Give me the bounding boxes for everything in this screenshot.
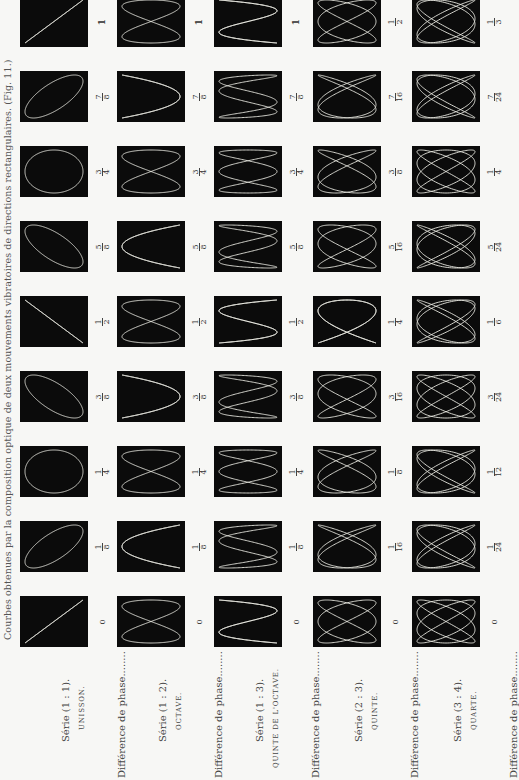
lissajous-figure xyxy=(20,596,88,647)
interval-name: QUARTE. xyxy=(470,691,478,730)
lissajous-curve-icon xyxy=(117,296,185,347)
interval-name: UNISSON. xyxy=(78,686,86,730)
lissajous-figure xyxy=(20,446,88,497)
phase-fraction: 58 xyxy=(289,243,304,250)
lissajous-figure xyxy=(412,146,480,197)
phase-value: 0 xyxy=(195,619,204,624)
lissajous-figure xyxy=(412,521,480,572)
lissajous-figure xyxy=(117,596,185,647)
lissajous-curve-icon xyxy=(412,296,480,347)
lissajous-figure xyxy=(214,446,282,497)
lissajous-curve-icon xyxy=(412,71,480,122)
phase-difference-label: 14 xyxy=(387,310,403,334)
lissajous-figure xyxy=(117,0,185,47)
phase-fraction: 78 xyxy=(95,93,110,100)
phase-difference-label: 78 xyxy=(288,85,304,109)
phase-difference-label: 18 xyxy=(288,535,304,559)
phase-fraction: 18 xyxy=(192,543,207,550)
phase-fraction: 34 xyxy=(289,168,304,175)
phase-fraction: 13 xyxy=(487,18,502,25)
phase-difference-label: 14 xyxy=(191,460,207,484)
phase-difference-label: 116 xyxy=(387,535,403,559)
lissajous-figure xyxy=(214,371,282,422)
phase-difference-label: 124 xyxy=(486,535,502,559)
phase-difference-label: 112 xyxy=(486,460,502,484)
lissajous-curve-icon xyxy=(412,0,480,47)
phase-fraction: 14 xyxy=(388,318,403,325)
phase-fraction: 112 xyxy=(487,467,502,477)
phase-fraction: 12 xyxy=(289,318,304,325)
lissajous-figure xyxy=(20,521,88,572)
phase-difference-heading: Différence de phase........ xyxy=(310,651,321,778)
phase-difference-label: 0 xyxy=(191,610,207,634)
lissajous-curve-icon xyxy=(117,221,185,272)
phase-difference-label: 58 xyxy=(191,235,207,259)
lissajous-curve-icon xyxy=(313,71,381,122)
phase-fraction: 18 xyxy=(95,543,110,550)
lissajous-figure xyxy=(20,221,88,272)
phase-fraction: 316 xyxy=(388,392,403,402)
lissajous-figure xyxy=(214,596,282,647)
phase-fraction: 14 xyxy=(487,168,502,175)
lissajous-figure xyxy=(20,71,88,122)
lissajous-figure xyxy=(313,446,381,497)
lissajous-curve-icon xyxy=(20,221,88,272)
lissajous-figure xyxy=(117,146,185,197)
lissajous-figure xyxy=(313,371,381,422)
phase-fraction: 716 xyxy=(388,92,403,102)
phase-difference-label: 1 xyxy=(94,10,110,34)
lissajous-figure xyxy=(313,71,381,122)
lissajous-figure xyxy=(214,521,282,572)
lissajous-curve-icon xyxy=(214,596,282,647)
phase-difference-label: 34 xyxy=(191,160,207,184)
phase-difference-label: 38 xyxy=(288,385,304,409)
lissajous-figure xyxy=(412,446,480,497)
phase-difference-label: 38 xyxy=(191,385,207,409)
phase-difference-heading: Différence de phase........ xyxy=(116,651,127,778)
phase-difference-label: 18 xyxy=(94,535,110,559)
phase-difference-label: 12 xyxy=(191,310,207,334)
phase-difference-label: 1 xyxy=(288,10,304,34)
lissajous-figure xyxy=(313,296,381,347)
lissajous-curve-icon xyxy=(20,71,88,122)
phase-value: 1 xyxy=(194,19,204,25)
lissajous-figure xyxy=(313,521,381,572)
phase-difference-label: 78 xyxy=(191,85,207,109)
phase-value: 0 xyxy=(98,619,107,624)
lissajous-figure xyxy=(412,371,480,422)
phase-difference-label: 316 xyxy=(387,385,403,409)
phase-difference-label: 13 xyxy=(486,10,502,34)
lissajous-figure xyxy=(412,0,480,47)
lissajous-figure xyxy=(117,296,185,347)
phase-difference-label: 18 xyxy=(191,535,207,559)
phase-difference-label: 0 xyxy=(288,610,304,634)
lissajous-curve-icon xyxy=(117,596,185,647)
lissajous-curve-icon xyxy=(20,146,88,197)
interval-name: QUINTE DE L'OCTAVE. xyxy=(272,668,280,768)
lissajous-curve-icon xyxy=(117,71,185,122)
phase-difference-label: 38 xyxy=(94,385,110,409)
lissajous-figure xyxy=(214,296,282,347)
phase-fraction: 16 xyxy=(487,318,502,325)
phase-difference-label: 78 xyxy=(94,85,110,109)
phase-value: 1 xyxy=(97,19,107,25)
lissajous-curve-icon xyxy=(313,446,381,497)
phase-difference-label: 16 xyxy=(486,310,502,334)
lissajous-figure xyxy=(117,221,185,272)
lissajous-curve-icon xyxy=(214,71,282,122)
lissajous-figure xyxy=(214,221,282,272)
phase-difference-label: 38 xyxy=(387,160,403,184)
phase-difference-heading: Différence de phase........ xyxy=(508,651,519,778)
serie-label: Série (1 : 2). xyxy=(157,679,168,742)
phase-difference-label: 58 xyxy=(288,235,304,259)
lissajous-curve-icon xyxy=(412,446,480,497)
lissajous-curve-icon xyxy=(214,446,282,497)
lissajous-figure xyxy=(313,146,381,197)
phase-fraction: 38 xyxy=(95,393,110,400)
page-title: Courbes obtenues par la composition opti… xyxy=(2,0,14,640)
lissajous-figure xyxy=(214,0,282,47)
phase-fraction: 34 xyxy=(192,168,207,175)
lissajous-figure xyxy=(117,521,185,572)
lissajous-curve-icon xyxy=(412,521,480,572)
phase-difference-heading: Différence de phase........ xyxy=(213,651,224,778)
